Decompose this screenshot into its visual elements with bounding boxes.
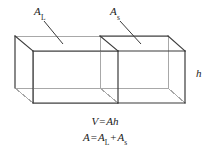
label-area-large-subscript: L bbox=[41, 13, 46, 22]
label-area-small-subscript: s bbox=[117, 13, 120, 22]
label-area-large: AL bbox=[34, 6, 45, 20]
leader-line-area-large bbox=[44, 21, 63, 44]
equation-area-sum-term1-base: A bbox=[98, 131, 105, 143]
equation-block: V=Ah A=AL+As bbox=[0, 114, 210, 148]
figure-container: AL As h V=Ah A=AL+As bbox=[0, 0, 210, 155]
equation-area-sum-term1-subscript: L bbox=[105, 138, 110, 147]
label-area-small: As bbox=[110, 6, 120, 20]
label-height-base: h bbox=[196, 67, 202, 79]
leader-line-area-small bbox=[120, 21, 141, 44]
label-area-small-base: A bbox=[110, 5, 117, 17]
equation-volume: V=Ah bbox=[0, 114, 210, 130]
equation-area-sum-term2-subscript: s bbox=[124, 138, 127, 147]
equation-area-sum-lhs: A bbox=[83, 131, 90, 143]
prism-interior-edges bbox=[15, 36, 185, 103]
equation-area-sum-operator: = bbox=[90, 131, 98, 143]
label-leader-lines bbox=[44, 21, 141, 44]
equation-area-sum: A=AL+As bbox=[0, 130, 210, 148]
equation-volume-rhs-height: h bbox=[113, 115, 119, 127]
label-area-large-base: A bbox=[34, 5, 41, 17]
label-height: h bbox=[196, 68, 202, 79]
